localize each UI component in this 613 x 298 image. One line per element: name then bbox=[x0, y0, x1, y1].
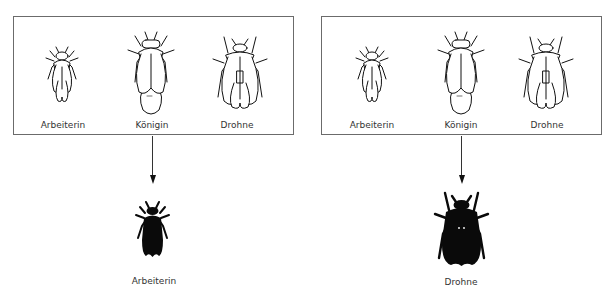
worker-bee-icon bbox=[44, 45, 80, 103]
queen-bee-icon bbox=[127, 30, 175, 118]
label-worker: Arbeiterin bbox=[350, 120, 395, 130]
label-queen: Königin bbox=[444, 120, 477, 130]
label-worker: Arbeiterin bbox=[41, 120, 86, 130]
worker-silhouette-icon bbox=[135, 200, 170, 258]
label-drone: Drohne bbox=[221, 120, 254, 130]
result-label-right: Drohne bbox=[445, 277, 478, 287]
arrow-line-right bbox=[461, 136, 463, 176]
arrow-down-icon bbox=[150, 175, 156, 184]
drone-bee-icon bbox=[212, 35, 268, 111]
worker-bee-icon bbox=[354, 45, 390, 103]
drone-bee-icon bbox=[518, 35, 574, 111]
arrow-line-left bbox=[152, 136, 154, 176]
arrow-down-icon bbox=[459, 175, 465, 184]
queen-bee-icon bbox=[437, 30, 485, 118]
drone-silhouette-icon bbox=[434, 192, 489, 267]
result-label-left: Arbeiterin bbox=[132, 276, 177, 286]
label-drone: Drohne bbox=[531, 120, 564, 130]
label-queen: Königin bbox=[135, 120, 168, 130]
